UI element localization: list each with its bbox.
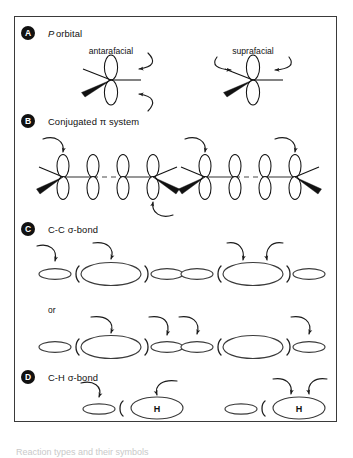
section-a-title-rest: orbital xyxy=(56,28,82,39)
sigma-lobe-small-left xyxy=(39,269,71,280)
arrow-b2-top-left xyxy=(185,138,205,152)
section-d-title: C-H σ-bond xyxy=(48,372,98,383)
section-badge-b-letter: B xyxy=(25,116,31,126)
section-b-title: Conjugated π system xyxy=(48,116,139,127)
section-c-title: C-C σ-bond xyxy=(48,224,98,235)
arrow-c2r-right xyxy=(291,317,310,334)
panel-b-suprafacial xyxy=(179,138,322,200)
panel-c-row1-right xyxy=(181,243,325,286)
sigma-bond-large-center xyxy=(81,263,141,286)
paren-open-left xyxy=(76,266,79,282)
p-orbital-top-lobe xyxy=(104,55,117,80)
sigma-lobe-small-right xyxy=(293,269,325,280)
diagram-canvas: A P orbital antarafacial suprafacial xyxy=(15,17,338,423)
sigma-lobe-small-left xyxy=(225,404,257,414)
paren-open-left xyxy=(262,401,265,416)
paren-open-left xyxy=(76,339,79,355)
arrow-c2l-right xyxy=(149,317,168,335)
section-c: C C-C σ-bond xyxy=(21,222,325,359)
arrow-dr-left xyxy=(273,379,291,394)
figure-caption: Reaction types and their symbols xyxy=(16,447,316,458)
paren-open-left xyxy=(120,401,123,416)
section-a: A P orbital antarafacial suprafacial xyxy=(21,26,291,111)
section-b: B Conjugated π system xyxy=(21,114,322,216)
section-badge-a-letter: A xyxy=(25,28,31,38)
arrow-b1-top-left xyxy=(43,138,63,152)
arrow-c2l-center xyxy=(91,317,112,333)
paren-open-left xyxy=(218,266,221,282)
or-label: or xyxy=(48,305,56,315)
arrow-b1-bottom-right xyxy=(153,202,173,216)
panel-a-suprafacial: suprafacial xyxy=(215,46,292,105)
sigma-lobe-small-left xyxy=(181,342,213,353)
arrow-dl-left xyxy=(81,382,100,397)
arrow-c1r-right xyxy=(267,243,283,260)
hydrogen-atom-label: H xyxy=(154,404,161,414)
panel-c-row1-left xyxy=(37,243,183,286)
arrow-a1-top xyxy=(139,53,153,69)
sigma-lobe-small-left xyxy=(39,342,71,353)
arrow-c1l-center xyxy=(93,243,112,259)
arrow-c1r-left xyxy=(227,243,243,260)
section-badge-d-letter: D xyxy=(25,372,31,382)
sigma-lobe-small-right xyxy=(293,342,325,353)
sigma-lobe-small-right xyxy=(151,269,183,280)
sigma-bond-large-center xyxy=(81,336,141,359)
paren-close-right xyxy=(145,266,148,282)
section-badge-c-letter: C xyxy=(25,224,31,234)
paren-close-right xyxy=(287,339,290,355)
arrow-c2r-left xyxy=(179,317,198,334)
arrow-a2-right xyxy=(275,57,291,70)
sigma-lobe-small-left xyxy=(83,404,115,414)
arrow-b2-top-right xyxy=(275,138,295,152)
arrow-c1l-left xyxy=(37,245,56,261)
panel-c-row2-right xyxy=(179,317,325,359)
sigma-lobe-small-left xyxy=(181,269,213,280)
sigma-bond-large-center xyxy=(223,263,283,286)
panel-d-right: H xyxy=(225,379,327,419)
figure-frame: A P orbital antarafacial suprafacial xyxy=(14,16,337,422)
panel-a-antarafacial: antarafacial xyxy=(82,46,153,111)
arrow-dr-right xyxy=(309,379,327,394)
section-d: D C-H σ-bond H H xyxy=(21,370,327,419)
panel-d-left: H xyxy=(81,381,183,419)
sigma-lobe-small-right xyxy=(151,342,183,353)
p-orbital-top-lobe xyxy=(246,55,259,80)
arrow-dl-right xyxy=(156,381,177,395)
panel-b-antarafacial xyxy=(37,138,180,216)
arrow-a1-bottom xyxy=(139,94,153,111)
p-orbital-bottom-lobe xyxy=(104,80,117,105)
paren-open-left xyxy=(218,339,221,355)
hydrogen-atom-label: H xyxy=(296,404,303,414)
paren-close-right xyxy=(145,339,148,355)
paren-close-right xyxy=(287,266,290,282)
section-a-title-prefix: P xyxy=(48,28,55,39)
panel-c-row2-left xyxy=(39,317,183,359)
sigma-bond-large-center xyxy=(223,336,283,359)
p-orbital-bottom-lobe xyxy=(246,80,259,105)
arrow-a2-left xyxy=(215,57,231,70)
